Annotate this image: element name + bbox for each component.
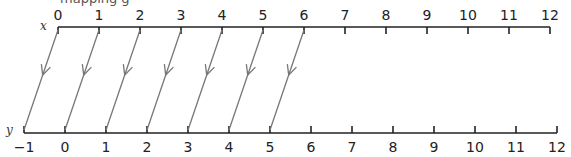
- x-tick-label: 12: [541, 7, 559, 23]
- y-tick-label: 3: [184, 139, 193, 155]
- mapping-arrow: [65, 30, 99, 130]
- y-tick-label: 9: [430, 139, 439, 155]
- y-tick-label: 2: [143, 139, 152, 155]
- x-tick-label: 10: [459, 7, 477, 23]
- mapping-arrows: [24, 30, 304, 130]
- y-tick-label: 1: [102, 139, 111, 155]
- y-tick-label: 12: [548, 139, 566, 155]
- mapping-diagram: 0123456789101112 −10123456789101112 x y: [0, 0, 571, 157]
- y-tick-label: 0: [61, 139, 70, 155]
- y-tick-label: 5: [266, 139, 275, 155]
- x-tick-label: 0: [54, 7, 63, 23]
- x-tick-label: 2: [136, 7, 145, 23]
- x-tick-label: 11: [500, 7, 518, 23]
- y-number-line: −10123456789101112: [14, 126, 566, 155]
- y-tick-label: 10: [466, 139, 484, 155]
- x-axis-label: x: [40, 19, 47, 33]
- mapping-arrow: [147, 30, 181, 130]
- x-tick-label: 9: [423, 7, 432, 23]
- mapping-arrow: [106, 30, 140, 130]
- x-tick-label: 6: [300, 7, 309, 23]
- x-tick-label: 4: [218, 7, 227, 23]
- y-tick-label: 6: [307, 139, 316, 155]
- y-tick-label: 4: [225, 139, 234, 155]
- x-tick-label: 8: [382, 7, 391, 23]
- y-tick-label: 7: [348, 139, 357, 155]
- y-tick-label: 11: [507, 139, 525, 155]
- mapping-arrow: [24, 30, 58, 130]
- y-axis-label: y: [5, 123, 13, 137]
- x-tick-label: 1: [95, 7, 104, 23]
- y-tick-label: 8: [389, 139, 398, 155]
- mapping-arrow: [270, 30, 304, 130]
- y-tick-label: −1: [14, 139, 35, 155]
- mapping-arrow: [188, 30, 222, 130]
- x-tick-label: 5: [259, 7, 268, 23]
- mapping-arrow: [229, 30, 263, 130]
- x-tick-label: 7: [341, 7, 350, 23]
- x-number-line: 0123456789101112: [54, 7, 559, 34]
- x-tick-label: 3: [177, 7, 186, 23]
